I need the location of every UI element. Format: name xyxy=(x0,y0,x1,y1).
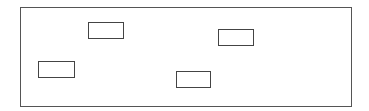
rectangle-box-4 xyxy=(176,71,211,88)
rectangle-box-2 xyxy=(218,29,254,46)
diagram-frame xyxy=(20,7,352,107)
rectangle-box-1 xyxy=(88,22,124,39)
rectangle-box-3 xyxy=(38,61,75,78)
